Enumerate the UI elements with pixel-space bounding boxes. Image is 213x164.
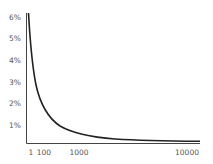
y-tick-2: 2% — [9, 99, 21, 108]
chart-svg: 6% 5% 4% 3% 2% 1% 1 100 1000 10000 — [0, 0, 213, 164]
x-tick-10000: 10000 — [175, 148, 199, 157]
x-axis-labels: 1 100 1000 10000 — [29, 148, 200, 157]
decay-curve — [29, 13, 201, 141]
y-tick-1: 1% — [9, 121, 21, 130]
y-tick-6: 6% — [9, 13, 21, 22]
y-axis-labels: 6% 5% 4% 3% 2% 1% — [9, 13, 21, 130]
x-tick-1: 1 — [29, 148, 34, 157]
y-tick-5: 5% — [9, 34, 21, 43]
x-tick-100: 100 — [37, 148, 52, 157]
decay-chart: 6% 5% 4% 3% 2% 1% 1 100 1000 10000 — [0, 0, 213, 164]
axes — [27, 13, 201, 144]
y-tick-4: 4% — [9, 56, 21, 65]
x-tick-1000: 1000 — [69, 148, 88, 157]
y-tick-3: 3% — [9, 78, 21, 87]
